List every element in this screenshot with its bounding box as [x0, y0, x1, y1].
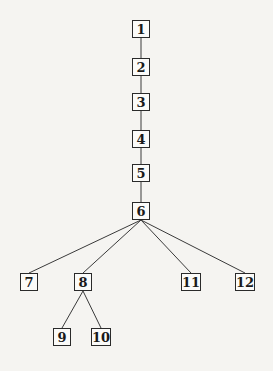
node-1: 1 — [132, 20, 150, 38]
node-label: 1 — [136, 22, 145, 37]
node-label: 5 — [136, 166, 145, 181]
node-4: 4 — [132, 130, 150, 148]
node-5: 5 — [132, 164, 150, 182]
tree-edges — [0, 0, 273, 371]
node-label: 2 — [136, 60, 145, 75]
edge-6-7 — [29, 220, 141, 273]
node-label: 3 — [136, 95, 145, 110]
node-7: 7 — [20, 273, 38, 291]
node-10: 10 — [91, 328, 111, 346]
node-3: 3 — [132, 93, 150, 111]
node-12: 12 — [235, 273, 255, 291]
tree-diagram: 1 2 3 4 5 6 7 8 9 10 11 12 — [0, 0, 273, 371]
node-label: 7 — [24, 275, 33, 290]
node-9: 9 — [53, 328, 71, 346]
node-label: 4 — [136, 132, 145, 147]
edge-6-12 — [141, 220, 245, 273]
node-label: 11 — [182, 275, 200, 290]
node-2: 2 — [132, 58, 150, 76]
edge-6-11 — [141, 220, 191, 273]
edge-6-8 — [83, 220, 141, 273]
node-label: 8 — [78, 275, 87, 290]
node-6: 6 — [132, 202, 150, 220]
node-label: 9 — [57, 330, 66, 345]
node-8: 8 — [74, 273, 92, 291]
edge-8-10 — [83, 291, 101, 328]
edge-8-9 — [62, 291, 83, 328]
node-label: 10 — [92, 330, 110, 345]
node-label: 6 — [136, 204, 145, 219]
node-label: 12 — [236, 275, 254, 290]
node-11: 11 — [181, 273, 201, 291]
